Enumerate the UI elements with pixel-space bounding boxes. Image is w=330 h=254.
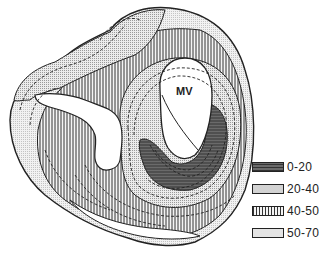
legend-label: 50-70 — [287, 226, 319, 240]
swatch-dot-stipple — [252, 184, 284, 194]
legend-label: 40-50 — [287, 204, 319, 218]
legend-item-40-50: 40-50 — [252, 204, 330, 218]
swatch-dark-hatch — [252, 162, 284, 172]
swatch-light-stipple — [252, 228, 284, 238]
swatch-vertical-hatch — [252, 206, 284, 216]
legend-label: 0-20 — [287, 160, 312, 174]
legend-item-50-70: 50-70 — [252, 226, 330, 240]
legend-item-0-20: 0-20 — [252, 160, 330, 174]
legend-item-20-40: 20-40 — [252, 182, 330, 196]
legend-label: 20-40 — [287, 182, 319, 196]
mv-label: MV — [176, 85, 193, 97]
